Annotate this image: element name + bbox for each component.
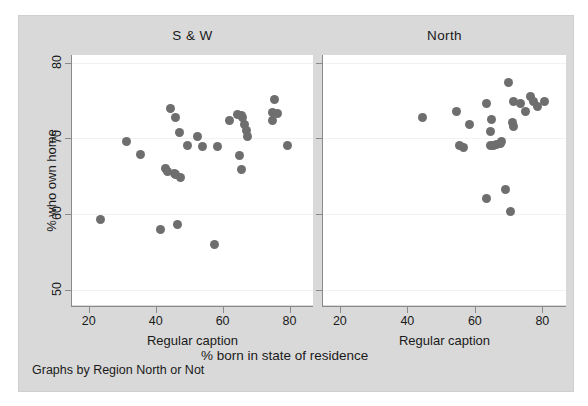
gridline-y	[72, 214, 313, 215]
data-point[interactable]	[171, 113, 180, 122]
data-point[interactable]	[175, 128, 184, 137]
data-point[interactable]	[459, 143, 468, 152]
x-tick-left	[89, 307, 90, 313]
data-point[interactable]	[173, 220, 182, 229]
y-tick-left	[65, 290, 71, 291]
plot-area-right[interactable]	[323, 55, 566, 305]
data-point[interactable]	[482, 194, 491, 203]
gridline-y	[72, 290, 313, 291]
plot-area-left[interactable]	[72, 55, 313, 305]
x-tick-label-left: 80	[270, 314, 310, 328]
data-point[interactable]	[482, 99, 491, 108]
x-tick-label-left: 40	[136, 314, 176, 328]
data-point[interactable]	[213, 142, 222, 151]
data-point[interactable]	[96, 215, 105, 224]
panel-title-left: S & W	[72, 28, 313, 43]
data-point[interactable]	[509, 122, 518, 131]
y-tick-left	[65, 138, 71, 139]
graph-region: S & W North % who own home % born in sta…	[18, 15, 574, 392]
y-tick-right	[316, 214, 322, 215]
gridline-y	[72, 63, 313, 64]
data-point[interactable]	[521, 107, 530, 116]
data-point[interactable]	[176, 173, 185, 182]
x-tick-right	[340, 307, 341, 313]
panel-title-right: North	[323, 28, 566, 43]
data-point[interactable]	[540, 97, 549, 106]
data-point[interactable]	[270, 95, 279, 104]
x-tick-left	[223, 307, 224, 313]
data-point[interactable]	[198, 142, 207, 151]
x-tick-right	[407, 307, 408, 313]
data-point[interactable]	[235, 151, 244, 160]
x-tick-left	[290, 307, 291, 313]
data-point[interactable]	[136, 150, 145, 159]
data-point[interactable]	[183, 141, 192, 150]
gridline-y	[323, 63, 566, 64]
x-tick-label-right: 80	[522, 314, 562, 328]
data-point[interactable]	[497, 137, 506, 146]
x-caption-right: Regular caption	[323, 333, 566, 348]
data-point[interactable]	[268, 116, 277, 125]
graphs-by-note: Graphs by Region North or Not	[32, 363, 204, 377]
x-tick-label-right: 20	[320, 314, 360, 328]
x-tick-label-right: 60	[455, 314, 495, 328]
gridline-y	[323, 214, 566, 215]
screenshot-root: S & W North % who own home % born in sta…	[0, 0, 588, 406]
y-tick-label: 70	[50, 122, 64, 152]
x-tick-right	[475, 307, 476, 313]
x-axis-line-right	[322, 306, 566, 307]
data-point[interactable]	[225, 116, 234, 125]
y-tick-left	[65, 214, 71, 215]
data-point[interactable]	[122, 137, 131, 146]
data-point[interactable]	[504, 78, 513, 87]
data-point[interactable]	[283, 141, 292, 150]
data-point[interactable]	[487, 115, 496, 124]
y-tick-label: 80	[50, 47, 64, 77]
x-tick-label-left: 60	[203, 314, 243, 328]
data-point[interactable]	[210, 240, 219, 249]
data-point[interactable]	[452, 107, 461, 116]
x-tick-left	[156, 307, 157, 313]
gridline-y	[323, 290, 566, 291]
y-tick-right	[316, 290, 322, 291]
y-tick-right	[316, 138, 322, 139]
x-caption-left: Regular caption	[72, 333, 313, 348]
x-tick-label-right: 40	[387, 314, 427, 328]
x-axis-title: % born in state of residence	[201, 348, 368, 363]
data-point[interactable]	[418, 113, 427, 122]
x-tick-label-left: 20	[69, 314, 109, 328]
y-tick-label: 60	[50, 198, 64, 228]
x-tick-right	[542, 307, 543, 313]
y-axis-line-right	[322, 55, 323, 306]
x-axis-line-left	[71, 306, 313, 307]
y-axis-line-left	[71, 55, 72, 306]
data-point[interactable]	[193, 132, 202, 141]
data-point[interactable]	[465, 120, 474, 129]
data-point[interactable]	[501, 185, 510, 194]
data-point[interactable]	[486, 127, 495, 136]
data-point[interactable]	[166, 104, 175, 113]
y-tick-left	[65, 63, 71, 64]
gridline-y	[323, 138, 566, 139]
data-point[interactable]	[237, 165, 246, 174]
y-tick-right	[316, 63, 322, 64]
data-point[interactable]	[156, 225, 165, 234]
y-tick-label: 50	[50, 274, 64, 304]
data-point[interactable]	[243, 132, 252, 141]
